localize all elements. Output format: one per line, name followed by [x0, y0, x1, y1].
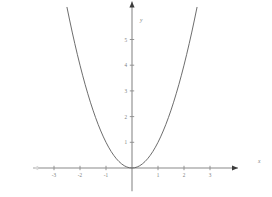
x-axis-arrow-icon: [232, 165, 238, 170]
x-axis-left-arrow-icon: [33, 166, 38, 170]
x-tick-label: 2: [183, 172, 186, 178]
y-tick-label: 2: [124, 114, 127, 120]
x-tick-label: -2: [78, 172, 83, 178]
x-axis-label: x: [257, 158, 261, 164]
y-tick-label: 1: [124, 139, 127, 145]
x-tick-label: 3: [209, 172, 212, 178]
y-tick-label: 5: [124, 37, 127, 43]
y-axis-arrow-icon: [129, 2, 134, 8]
x-tick-label: -1: [104, 172, 109, 178]
axes-group: [33, 2, 238, 192]
y-axis-label: y: [139, 17, 143, 23]
graph-figure: -3-2-112312345 x y: [0, 0, 272, 197]
y-tick-label: 3: [124, 88, 127, 94]
y-tick-label: 4: [124, 62, 127, 68]
cartesian-plot: -3-2-112312345 x y: [0, 0, 272, 197]
x-tick-label: -3: [52, 172, 57, 178]
x-tick-label: 1: [157, 172, 160, 178]
